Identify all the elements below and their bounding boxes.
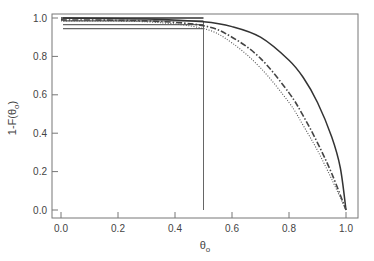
- x-tick-label: 0.0: [54, 223, 68, 234]
- y-axis-label: 1-F(θo): [6, 101, 21, 135]
- x-tick-label: 0.2: [111, 223, 125, 234]
- x-tick-label: 1.0: [339, 223, 353, 234]
- y-axis-ticks: 0.00.20.40.60.81.0: [33, 13, 58, 216]
- y-tick-label: 0.0: [33, 205, 47, 216]
- y-tick-label: 0.2: [33, 166, 47, 177]
- x-axis-label: θo: [200, 239, 211, 254]
- chart: 0.00.20.40.60.81.0 0.00.20.40.60.81.0 θo…: [0, 0, 374, 261]
- y-tick-label: 0.4: [33, 128, 47, 139]
- y-tick-label: 0.8: [33, 51, 47, 62]
- plot-frame: [52, 14, 358, 218]
- x-tick-label: 0.6: [225, 223, 239, 234]
- y-tick-label: 0.6: [33, 89, 47, 100]
- x-tick-label: 0.8: [282, 223, 296, 234]
- reference-lines: [63, 18, 204, 210]
- y-tick-label: 1.0: [33, 13, 47, 24]
- x-axis-ticks: 0.00.20.40.60.81.0: [54, 212, 353, 234]
- x-tick-label: 0.4: [168, 223, 182, 234]
